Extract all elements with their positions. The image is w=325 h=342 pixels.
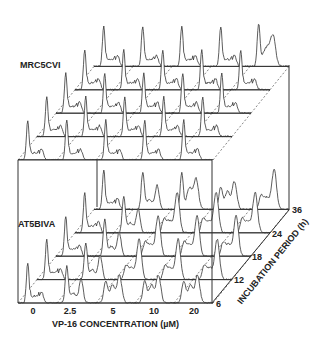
dna-histogram	[154, 96, 193, 136]
dna-histogram	[18, 121, 57, 160]
x-axis-title: VP-16 CONCENTRATION (µM)	[52, 319, 179, 329]
depth-guide-line	[270, 66, 289, 89]
panel-label-at5biva: AT5BIVA	[18, 219, 55, 229]
dna-histogram	[211, 27, 250, 66]
chart-canvas	[0, 0, 325, 342]
depth-guide-line	[232, 113, 251, 136]
dna-histogram	[133, 27, 172, 67]
dna-histogram	[172, 26, 211, 66]
dna-histogram	[173, 74, 212, 114]
z-tick-6: 6	[216, 299, 221, 309]
dna-histogram	[95, 74, 134, 114]
z-tick-12: 12	[234, 275, 244, 285]
dna-histogram	[193, 97, 232, 137]
x-tick-5: 5	[110, 306, 115, 316]
dna-histogram	[76, 96, 115, 137]
dna-histogram	[153, 50, 192, 90]
dna-histogram	[174, 120, 213, 161]
dna-histogram	[115, 97, 154, 137]
dna-histogram	[135, 120, 174, 160]
dna-histogram	[57, 120, 96, 160]
z-tick-36: 36	[292, 205, 302, 215]
z-tick-18: 18	[252, 252, 262, 262]
x-tick-2-5: 2.5	[64, 306, 77, 316]
dna-histogram	[192, 50, 231, 90]
x-tick-0: 0	[30, 306, 35, 316]
x-tick-20: 20	[189, 306, 199, 316]
dna-histogram	[134, 73, 173, 113]
dna-histogram	[56, 73, 95, 114]
x-tick-10: 10	[149, 306, 159, 316]
dna-histogram	[212, 73, 251, 113]
dna-histogram	[250, 24, 289, 66]
z-tick-24: 24	[272, 229, 282, 239]
depth-guide-line	[213, 137, 232, 160]
dna-histogram	[94, 26, 133, 66]
dna-histogram	[75, 50, 114, 90]
dna-histogram	[96, 119, 135, 160]
panel-label-mrc5cvi: MRC5CVI	[20, 60, 61, 70]
dna-histogram	[114, 49, 153, 89]
dna-histogram	[37, 97, 76, 137]
depth-guide-line	[251, 90, 270, 113]
